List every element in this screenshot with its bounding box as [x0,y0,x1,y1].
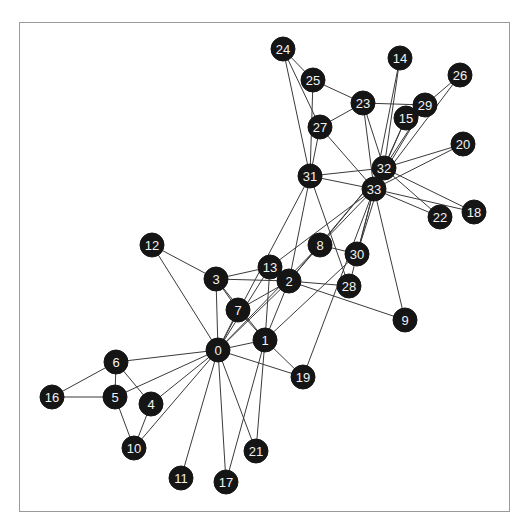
graph-canvas: 0123456789101112131415161718192021222324… [0,0,524,531]
node-circle[interactable] [253,328,277,352]
node-circle[interactable] [122,436,146,460]
node-circle[interactable] [308,233,332,257]
graph-node-3[interactable]: 3 [204,267,228,291]
graph-node-29[interactable]: 29 [413,93,437,117]
node-circle[interactable] [139,392,163,416]
graph-node-17[interactable]: 17 [214,470,238,494]
graph-edge [151,350,218,404]
node-circle[interactable] [362,177,386,201]
graph-edge [152,245,218,350]
graph-node-23[interactable]: 23 [351,91,375,115]
node-circle[interactable] [351,91,375,115]
graph-node-25[interactable]: 25 [301,68,325,92]
node-circle[interactable] [104,350,128,374]
graph-node-21[interactable]: 21 [244,439,268,463]
node-circle[interactable] [204,267,228,291]
graph-edge [384,168,474,212]
node-circle[interactable] [298,164,322,188]
node-layer: 0123456789101112131415161718192021222324… [40,37,486,494]
node-circle[interactable] [40,385,64,409]
graph-node-26[interactable]: 26 [448,63,472,87]
graph-node-20[interactable]: 20 [451,132,475,156]
graph-node-7[interactable]: 7 [226,298,250,322]
graph-node-5[interactable]: 5 [103,385,127,409]
graph-node-9[interactable]: 9 [393,308,417,332]
node-circle[interactable] [393,308,417,332]
graph-node-30[interactable]: 30 [345,242,369,266]
node-circle[interactable] [226,298,250,322]
node-circle[interactable] [337,274,361,298]
graph-node-33[interactable]: 33 [362,177,386,201]
graph-node-4[interactable]: 4 [139,392,163,416]
graph-edge [115,350,218,397]
node-circle[interactable] [103,385,127,409]
node-circle[interactable] [301,68,325,92]
node-circle[interactable] [214,470,238,494]
node-circle[interactable] [169,466,193,490]
node-circle[interactable] [388,46,412,70]
graph-node-27[interactable]: 27 [308,115,332,139]
graph-edge [181,350,218,478]
graph-edge [218,350,303,377]
node-circle[interactable] [140,233,164,257]
graph-edge [374,189,474,212]
node-circle[interactable] [428,205,452,229]
node-circle[interactable] [258,255,282,279]
graph-node-16[interactable]: 16 [40,385,64,409]
graph-node-14[interactable]: 14 [388,46,412,70]
node-circle[interactable] [206,338,230,362]
node-circle[interactable] [451,132,475,156]
graph-edge [116,350,218,362]
graph-node-18[interactable]: 18 [462,200,486,224]
node-circle[interactable] [271,37,295,61]
graph-node-6[interactable]: 6 [104,350,128,374]
node-circle[interactable] [448,63,472,87]
graph-node-32[interactable]: 32 [372,156,396,180]
node-circle[interactable] [291,365,315,389]
graph-edge [283,49,310,176]
graph-node-22[interactable]: 22 [428,205,452,229]
node-circle[interactable] [308,115,332,139]
graph-edge [310,176,349,286]
graph-node-10[interactable]: 10 [122,436,146,460]
node-circle[interactable] [345,242,369,266]
graph-node-24[interactable]: 24 [271,37,295,61]
graph-node-19[interactable]: 19 [291,365,315,389]
node-circle[interactable] [244,439,268,463]
graph-node-8[interactable]: 8 [308,233,332,257]
node-circle[interactable] [372,156,396,180]
network-graph-figure: 0123456789101112131415161718192021222324… [0,0,524,531]
graph-node-12[interactable]: 12 [140,233,164,257]
node-circle[interactable] [462,200,486,224]
graph-edge [363,103,374,189]
graph-node-31[interactable]: 31 [298,164,322,188]
graph-edge [374,189,405,320]
graph-node-1[interactable]: 1 [253,328,277,352]
graph-node-28[interactable]: 28 [337,274,361,298]
graph-node-13[interactable]: 13 [258,255,282,279]
graph-node-11[interactable]: 11 [169,466,193,490]
node-circle[interactable] [413,93,437,117]
graph-node-0[interactable]: 0 [206,338,230,362]
graph-edge [218,350,226,482]
